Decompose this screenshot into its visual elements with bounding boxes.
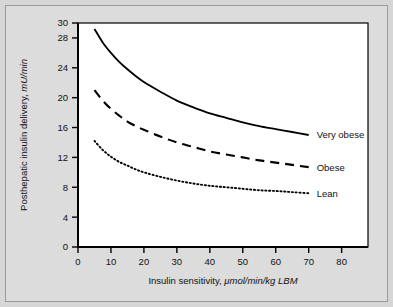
y-axis-ticks: 048121620242830 [57,17,78,252]
x-tick-label: 10 [106,256,117,267]
x-axis-title: Insulin sensitivity, μmol/min/kg LBM [148,275,297,286]
y-tick-label: 24 [57,62,68,73]
x-tick-label: 20 [139,256,150,267]
x-tick-label: 50 [237,256,248,267]
y-tick-label: 20 [57,92,68,103]
y-tick-label: 4 [63,212,68,223]
y-tick-label: 16 [57,122,68,133]
y-axis-title: Posthepatic insulin delivery, mU/min [18,59,29,211]
chart-canvas: 048121620242830 01020304050607080 Very o… [0,0,393,307]
figure-container: 048121620242830 01020304050607080 Very o… [0,0,393,307]
series-label-obese: Obese [317,162,345,173]
x-tick-label: 80 [336,256,347,267]
series-label-lean: Lean [317,188,338,199]
y-tick-label: 8 [63,182,68,193]
x-tick-label: 70 [303,256,314,267]
y-tick-label: 30 [57,17,68,28]
x-tick-label: 60 [270,256,281,267]
y-tick-label: 0 [63,241,68,252]
x-tick-label: 0 [75,256,80,267]
x-tick-label: 30 [172,256,183,267]
x-tick-label: 40 [205,256,216,267]
y-tick-label: 28 [57,32,68,43]
y-tick-label: 12 [57,152,68,163]
x-axis-ticks: 01020304050607080 [75,247,347,267]
series-label-very-obese: Very obese [317,129,365,140]
